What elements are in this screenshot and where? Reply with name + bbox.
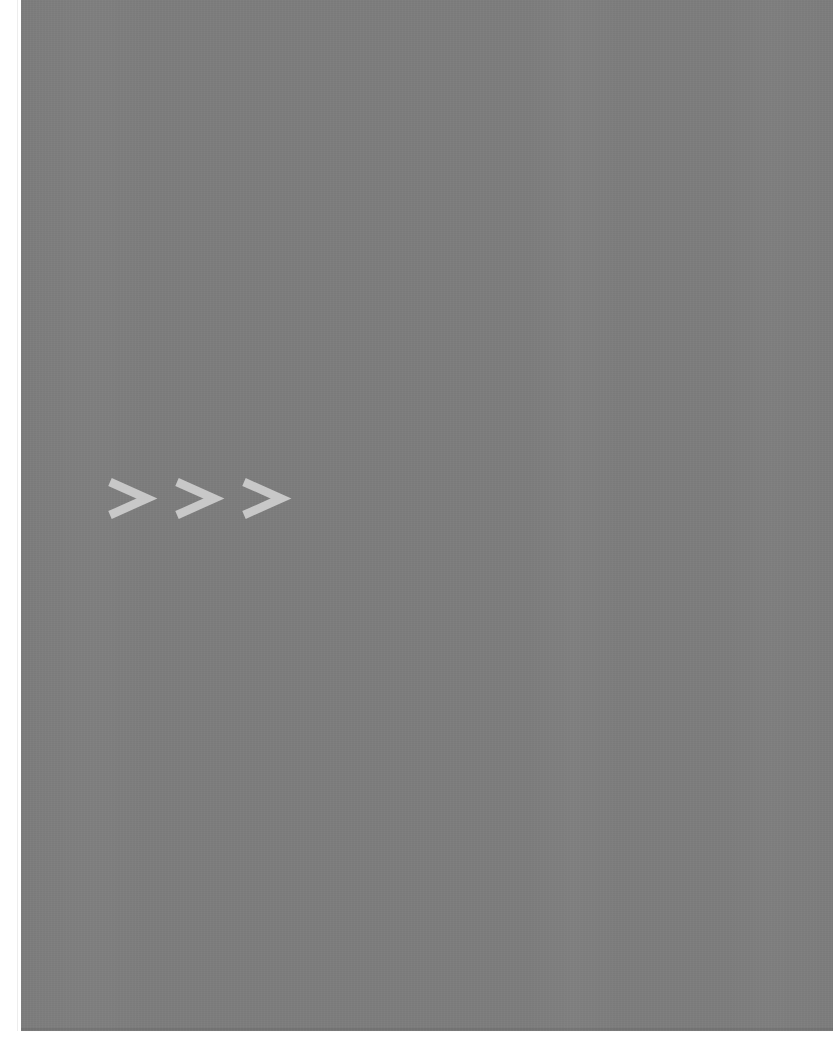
- chevron-indicator-group[interactable]: [105, 478, 288, 519]
- chevron-right-icon-2[interactable]: [172, 478, 221, 519]
- chevron-right-icon-3[interactable]: [239, 478, 288, 519]
- left-separator-rule: [17, 0, 18, 1031]
- screenshot-canvas: [0, 0, 833, 1044]
- chevron-right-icon-1[interactable]: [105, 478, 154, 519]
